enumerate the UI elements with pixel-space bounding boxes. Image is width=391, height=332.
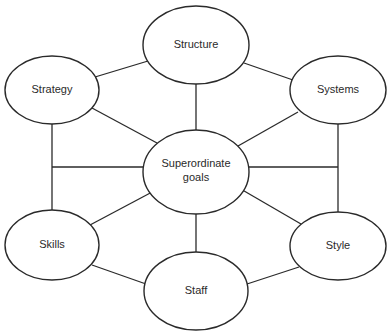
node-strategy: Strategy — [5, 56, 99, 124]
node-structure-label: Structure — [174, 38, 219, 50]
edge-structure-systems — [244, 63, 293, 80]
node-systems-label: Systems — [317, 83, 360, 95]
node-style: Style — [290, 212, 386, 280]
edge-style-staff — [247, 267, 299, 284]
node-staff-label: Staff — [185, 284, 208, 296]
edge-goals-style — [239, 188, 301, 224]
node-goals-label-line2: goals — [183, 171, 210, 183]
node-skills-label: Skills — [39, 238, 65, 250]
edge-systems-goals — [238, 112, 298, 146]
node-systems: Systems — [290, 56, 386, 124]
node-goals-label-line1: Superordinate — [161, 157, 230, 169]
edge-goals-skills — [90, 191, 154, 225]
edge-structure-strategy — [95, 61, 148, 77]
node-strategy-label: Strategy — [32, 83, 73, 95]
node-style-label: Style — [326, 239, 350, 251]
node-skills: Skills — [5, 210, 99, 280]
seven-s-diagram: Structure Strategy Systems Superordinate… — [0, 0, 391, 332]
node-superordinate-goals: Superordinate goals — [143, 130, 249, 214]
edge-skills-staff — [92, 265, 146, 284]
node-structure: Structure — [143, 6, 249, 84]
edge-strategy-goals — [92, 108, 157, 143]
node-staff: Staff — [144, 252, 248, 330]
